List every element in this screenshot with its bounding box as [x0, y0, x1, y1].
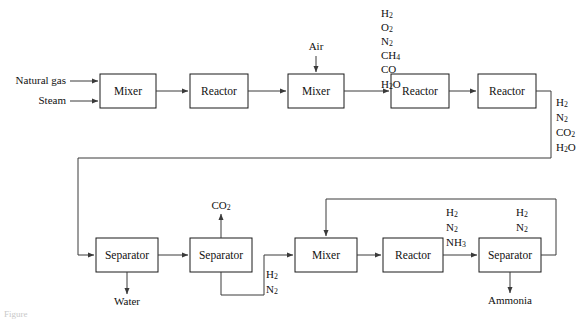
species-h2: H2 — [266, 268, 278, 281]
figure-caption: Figure — [4, 309, 28, 319]
species-ch4: CH4 — [381, 49, 400, 62]
stream-reactor3-to-separator1-wrap — [78, 91, 551, 255]
species-n2: N2 — [266, 283, 278, 296]
label-converter-outlet-composition: H2 N2 NH3 — [446, 206, 466, 249]
label-natural-gas: Natural gas — [16, 74, 66, 86]
species-n2: N2 — [446, 221, 458, 234]
unit-separator-2[interactable]: Separator — [190, 238, 252, 272]
label-steam: Steam — [39, 94, 67, 106]
species-h2: H2 — [516, 206, 528, 219]
label-water: Water — [114, 295, 140, 307]
label-syngas-recycle-composition: H2 N2 — [266, 268, 278, 296]
species-h2o: H2O — [556, 141, 576, 154]
species-n2: N2 — [381, 35, 393, 48]
species-co: CO — [381, 63, 396, 75]
label-ammonia: Ammonia — [488, 294, 532, 306]
unit-mixer-2[interactable]: Mixer — [288, 74, 344, 108]
species-h2: H2 — [446, 206, 458, 219]
label-unreacted-recycle-composition: H2 N2 — [516, 206, 528, 234]
unit-mixer-1-label: Mixer — [114, 85, 142, 97]
label-shift-outlet-composition: H2 N2 CO2 H2O — [556, 96, 576, 154]
species-o2: O2 — [381, 21, 393, 34]
label-air: Air — [309, 40, 324, 52]
unit-reactor-1[interactable]: Reactor — [190, 74, 248, 108]
unit-separator-2-label: Separator — [199, 249, 243, 262]
unit-mixer-3[interactable]: Mixer — [295, 238, 357, 272]
unit-reactor-2-label: Reactor — [402, 85, 438, 97]
process-flow-diagram: Mixer Reactor Mixer Reactor Reactor Sepa… — [0, 0, 579, 320]
unit-reactor-3[interactable]: Reactor — [478, 74, 536, 108]
unit-separator-1-label: Separator — [105, 249, 149, 262]
unit-reactor-4-label: Reactor — [395, 249, 431, 261]
diagram-canvas: Mixer Reactor Mixer Reactor Reactor Sepa… — [0, 0, 579, 320]
unit-separator-3-label: Separator — [488, 249, 532, 262]
species-n2: N2 — [516, 221, 528, 234]
species-h2: H2 — [381, 7, 393, 20]
unit-mixer-3-label: Mixer — [312, 249, 340, 261]
unit-mixer-1[interactable]: Mixer — [100, 74, 156, 108]
label-carbon-dioxide: CO2 — [211, 199, 230, 212]
species-h2: H2 — [556, 96, 568, 109]
species-n2: N2 — [556, 111, 568, 124]
species-co2: CO2 — [556, 126, 575, 139]
unit-mixer-2-label: Mixer — [302, 85, 330, 97]
species-nh3: NH3 — [446, 236, 466, 249]
unit-separator-1[interactable]: Separator — [96, 238, 158, 272]
unit-reactor-3-label: Reactor — [489, 85, 525, 97]
unit-reactor-4[interactable]: Reactor — [383, 238, 443, 272]
unit-separator-3[interactable]: Separator — [479, 238, 541, 272]
unit-reactor-1-label: Reactor — [201, 85, 237, 97]
